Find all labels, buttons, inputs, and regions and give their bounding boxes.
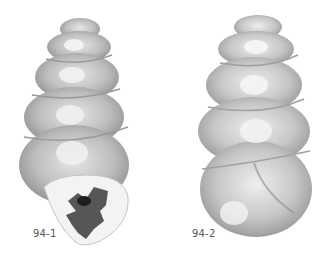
specimen-label-94-1: 94-1 [33, 228, 57, 239]
shell-94-2-image [194, 13, 316, 245]
specimen-label-94-2: 94-2 [192, 228, 216, 239]
shell-94-1-image [16, 15, 134, 247]
shell-specimen-94-2 [194, 13, 316, 245]
shell-specimen-94-1 [16, 15, 134, 247]
